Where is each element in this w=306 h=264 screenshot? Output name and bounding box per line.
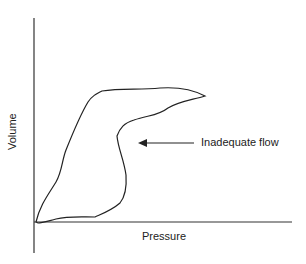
arrow-head-icon xyxy=(138,139,147,147)
pv-loop-diagram xyxy=(0,0,306,264)
x-axis-label: Pressure xyxy=(142,230,186,242)
pressure-volume-loop xyxy=(36,88,205,223)
annotation-label: Inadequate flow xyxy=(201,136,279,148)
y-axis-label: Volume xyxy=(6,113,18,150)
